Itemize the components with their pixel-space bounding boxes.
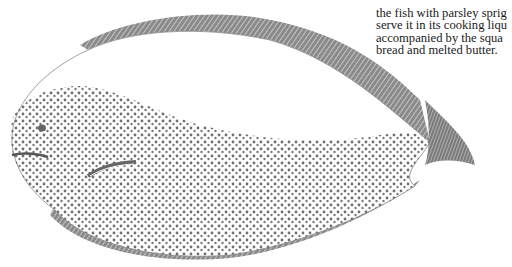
text-line: bread and melted butter. (376, 44, 512, 57)
text-line: serve it in its cooking liqu (376, 19, 512, 32)
fish-eye (38, 125, 46, 132)
recipe-text: the fish with parsley sprig serve it in … (376, 0, 512, 57)
tail-fin (425, 100, 475, 165)
